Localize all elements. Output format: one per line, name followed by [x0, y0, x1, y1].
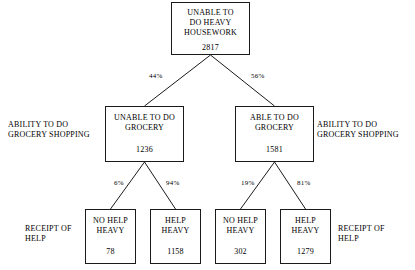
node-label: UNABLE TO DO GROCERY: [112, 113, 177, 133]
node-label: ABLE TO DO GROCERY: [248, 113, 301, 133]
edge-label-right-leaf4: 81%: [296, 179, 311, 187]
node-label: NO HELP HEAVY: [221, 216, 260, 236]
node-help-heavy-left: HELP HEAVY 1158: [150, 209, 201, 264]
node-unable-heavy-housework: UNABLE TO DO HEAVY HOUSEWORK 2817: [171, 2, 250, 55]
node-value: 1279: [297, 247, 314, 257]
node-label: NO HELP HEAVY: [91, 216, 130, 236]
node-value: 1236: [136, 145, 153, 155]
node-unable-grocery: UNABLE TO DO GROCERY 1236: [105, 106, 184, 162]
annotation-receipt-help-right: RECEIPT OF HELP: [338, 224, 385, 244]
edge-label-root-right: 56%: [250, 72, 265, 80]
edge-label-left-leaf2: 94%: [165, 179, 180, 187]
node-value: 78: [106, 247, 114, 257]
annotation-grocery-ability-right: ABILITY TO DO GROCERY SHOPPING: [317, 120, 399, 140]
edge-label-root-left: 44%: [148, 72, 163, 80]
node-help-heavy-right: HELP HEAVY 1279: [280, 209, 331, 264]
node-value: 302: [234, 247, 247, 257]
node-no-help-heavy-left: NO HELP HEAVY 78: [85, 209, 136, 264]
node-label: HELP HEAVY: [160, 216, 192, 236]
node-label: HELP HEAVY: [290, 216, 322, 236]
annotation-receipt-help-left: RECEIPT OF HELP: [25, 224, 72, 244]
node-value: 2817: [202, 43, 219, 53]
node-value: 1581: [266, 145, 283, 155]
edge-root-to-able-grocery: [211, 55, 275, 106]
node-value: 1158: [167, 247, 184, 257]
node-no-help-heavy-right: NO HELP HEAVY 302: [215, 209, 266, 264]
edge-label-right-leaf3: 19%: [240, 179, 255, 187]
edge-label-left-leaf1: 6%: [113, 179, 125, 187]
decision-tree-diagram: UNABLE TO DO HEAVY HOUSEWORK 2817 UNABLE…: [0, 0, 415, 270]
edge-root-to-unable-grocery: [145, 55, 211, 106]
annotation-grocery-ability-left: ABILITY TO DO GROCERY SHOPPING: [8, 120, 90, 140]
node-able-grocery: ABLE TO DO GROCERY 1581: [235, 106, 314, 162]
node-label: UNABLE TO DO HEAVY HOUSEWORK: [182, 8, 239, 38]
